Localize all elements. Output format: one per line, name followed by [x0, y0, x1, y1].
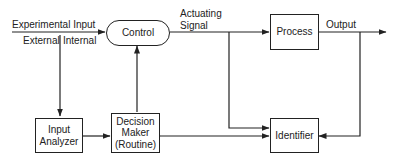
decision-maker-line3: (Routine) [115, 139, 156, 151]
process-node: Process [270, 14, 319, 50]
signal-label: Signal [180, 20, 208, 31]
input-analyzer-line2: Analyzer [40, 136, 79, 148]
actuating-to-identifier-line [229, 32, 269, 128]
external-label: External [23, 35, 60, 46]
output-label: Output [326, 19, 356, 30]
output-to-identifier-line [319, 32, 360, 136]
experimental-input-label: Experimental Input [12, 19, 95, 30]
control-node-label: Control [122, 27, 154, 39]
internal-label: Internal [63, 35, 96, 46]
process-node-label: Process [276, 26, 312, 38]
actuating-label: Actuating [180, 8, 222, 19]
input-analyzer-line1: Input [48, 124, 70, 136]
decision-maker-line1: Decision [116, 116, 154, 128]
identifier-node: Identifier [270, 118, 319, 153]
control-node: Control [106, 20, 170, 46]
decision-maker-node: Decision Maker (Routine) [111, 113, 160, 153]
identifier-node-label: Identifier [275, 130, 313, 142]
input-analyzer-node: Input Analyzer [35, 118, 83, 153]
decision-maker-line2: Maker [122, 127, 150, 139]
